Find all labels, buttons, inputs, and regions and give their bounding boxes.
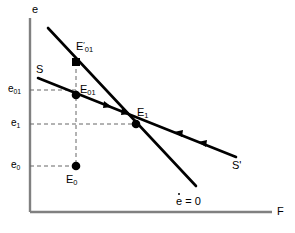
y-tick-label-e1: e1 — [11, 118, 20, 129]
y-tick-label-e0: e0 — [11, 160, 20, 171]
edot-accent-base: e — [176, 196, 182, 207]
arrowhead-s-left-1 — [103, 101, 112, 108]
point-sub-E0: 0 — [73, 178, 77, 187]
marker-E1 — [132, 120, 141, 129]
point-sub-E1: 1 — [144, 111, 148, 120]
x-axis-label: F — [277, 206, 284, 217]
curve-label-edot-zero: e = 0 — [176, 196, 201, 207]
curve-label-s: S — [36, 64, 43, 75]
y-tick-sub-e0: 0 — [17, 164, 21, 171]
point-sub-E01-prime: 01 — [85, 45, 93, 54]
edot-zero-curve — [48, 28, 196, 186]
point-label-E0: E0 — [66, 174, 78, 186]
marker-E01-prime — [72, 58, 80, 66]
phase-diagram-figure: e F e01 e1 e0 S S' e = 0 E′01 E01 E1 E0 — [0, 0, 295, 233]
marker-E01 — [72, 91, 81, 100]
point-sub-E01: 01 — [87, 88, 95, 97]
edot-label-rest: = 0 — [182, 195, 201, 207]
marker-E0 — [72, 162, 81, 171]
y-tick-label-e01: e01 — [8, 84, 21, 95]
point-label-E01-prime: E′01 — [76, 41, 93, 54]
curve-label-s-prime: S' — [232, 160, 241, 171]
y-tick-sub-e1: 1 — [17, 122, 21, 129]
y-axis-label: e — [32, 4, 38, 15]
y-tick-sub-e01: 01 — [14, 88, 22, 95]
point-label-E1: E1 — [137, 107, 149, 119]
point-label-E01: E01 — [80, 84, 96, 96]
